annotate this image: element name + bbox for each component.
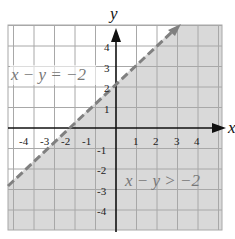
y-tick-label: -2 — [97, 164, 106, 176]
x-tick-label: -2 — [61, 135, 70, 147]
y-axis-arrow-icon — [111, 28, 121, 42]
inequality-graph: y x -4 -3 -2 -1 1 2 3 4 4 3 2 1 -1 -2 -3… — [0, 0, 235, 239]
x-tick-label: 3 — [174, 135, 180, 147]
boundary-equation-label: x − y = −2 — [10, 65, 87, 84]
x-tick-label: -4 — [19, 135, 29, 147]
y-tick-label: 2 — [104, 82, 110, 94]
y-tick-label: -3 — [97, 185, 107, 197]
x-tick-label: -1 — [82, 135, 91, 147]
y-tick-label: -1 — [97, 144, 106, 156]
y-tick-label: -4 — [97, 205, 107, 217]
y-axis-label: y — [108, 4, 118, 23]
x-tick-label: 2 — [153, 135, 159, 147]
inequality-label: x − y > −2 — [124, 171, 201, 190]
x-axis-label: x — [227, 118, 235, 137]
y-tick-label: 1 — [104, 103, 110, 115]
x-tick-label: -3 — [40, 135, 50, 147]
x-tick-label: 4 — [194, 135, 200, 147]
x-tick-label: 1 — [133, 135, 139, 147]
y-tick-label: 3 — [104, 62, 110, 74]
y-tick-label: 4 — [104, 41, 110, 53]
